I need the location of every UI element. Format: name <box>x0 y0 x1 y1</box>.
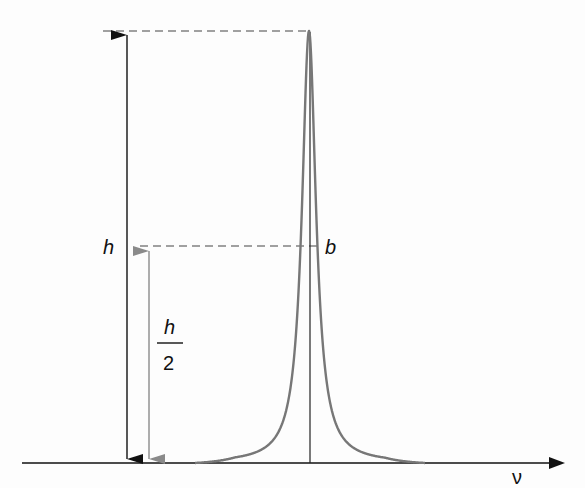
lorentzian-diagram: h b h 2 ν <box>0 0 585 488</box>
diagram-svg: h b h 2 ν <box>0 0 585 488</box>
x-axis-arrowhead-icon <box>549 457 565 469</box>
x-axis-label-nu: ν <box>512 466 522 488</box>
height-label: h <box>103 236 114 258</box>
half-width-label: b <box>325 236 336 258</box>
half-height-numerator: h <box>164 316 175 338</box>
half-height-denominator: 2 <box>163 352 174 374</box>
